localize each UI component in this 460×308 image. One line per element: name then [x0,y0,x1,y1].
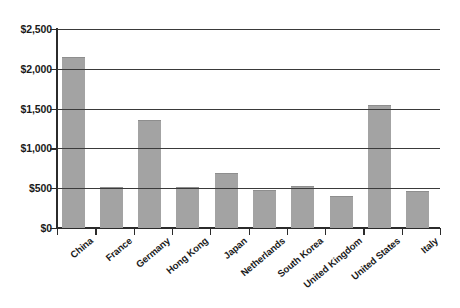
plot-area [57,29,440,228]
y-tick-mark [50,228,57,229]
y-axis-tick-label: $500 [29,182,52,194]
y-tick-mark [50,29,57,30]
y-tick-mark [50,69,57,70]
bar-chart: $0$500$1,000$1,500$2,000$2,500 ChinaFran… [0,0,460,308]
y-tick-mark [50,148,57,149]
x-axis-tick-label-text: Japan [221,235,249,261]
y-axis-tick-label: $2,500 [20,23,52,35]
y-axis-tick-labels: $0$500$1,000$1,500$2,000$2,500 [0,0,52,308]
y-axis-line [56,28,58,229]
gridline [57,109,440,110]
y-axis-tick-label: $1,000 [20,142,52,154]
y-axis-tick-label: $2,000 [20,63,52,75]
gridline [57,148,440,149]
x-axis-tick-label-text: Italy [419,235,440,255]
y-tick-mark [50,188,57,189]
y-axis-tick-label: $1,500 [20,103,52,115]
gridline [57,29,440,30]
y-tick-mark [50,109,57,110]
bar [138,120,161,228]
x-axis-tick-labels: ChinaFranceGermanyHong KongJapanNetherla… [57,229,440,308]
gridline [57,69,440,70]
bar [62,57,85,228]
gridline [57,188,440,189]
x-axis-tick-label-text: China [68,235,95,260]
x-axis-tick-label-text: France [103,235,134,263]
